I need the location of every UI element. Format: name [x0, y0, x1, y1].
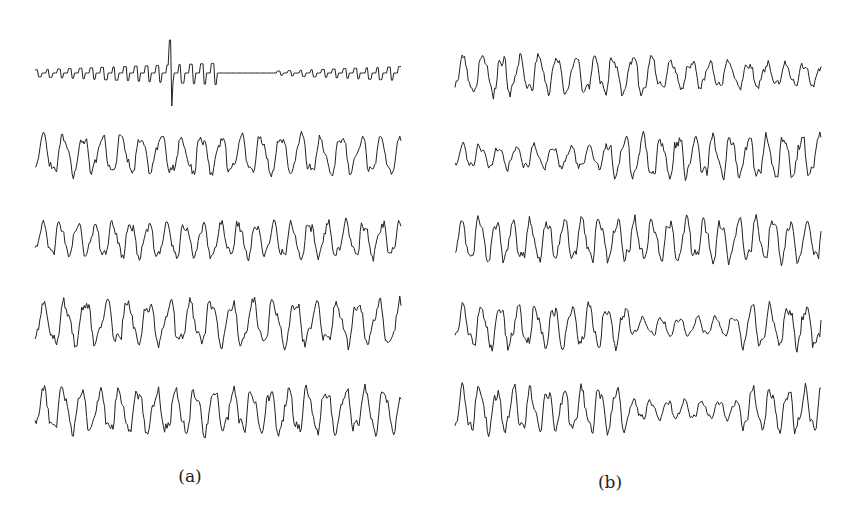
- eeg-trace-a-5: [35, 384, 401, 438]
- eeg-trace-b-1: [455, 54, 821, 100]
- eeg-trace-a-3: [35, 218, 401, 262]
- eeg-trace-b-3: [455, 215, 821, 266]
- eeg-trace-b-5: [455, 383, 821, 437]
- panel-a-label: (a): [178, 466, 201, 486]
- eeg-traces: [0, 0, 851, 519]
- eeg-trace-a-2: [35, 131, 401, 179]
- panel-b-traces: [455, 54, 821, 437]
- eeg-trace-a-1: [35, 40, 401, 106]
- eeg-trace-b-2: [455, 131, 821, 180]
- eeg-trace-b-4: [455, 301, 821, 352]
- panel-b-label: (b): [598, 472, 622, 492]
- eeg-figure: (a) (b): [0, 0, 851, 519]
- panel-a-traces: [35, 40, 401, 438]
- eeg-trace-a-4: [35, 296, 401, 350]
